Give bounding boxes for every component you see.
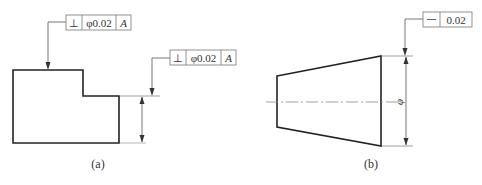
leader-line-top: [48, 22, 66, 66]
arrow-icon: [404, 57, 409, 65]
datum-label: A: [224, 52, 232, 64]
tolerance-value: φ0.02: [191, 52, 217, 64]
tapered-part-outline: [277, 56, 381, 146]
datum-label: A: [119, 17, 127, 29]
tolerance-frame: 0.02: [423, 12, 472, 27]
arrow-icon: [140, 97, 145, 105]
arrow-icon: [46, 62, 51, 70]
arrow-icon: [404, 138, 409, 146]
figure-a: ⊥ φ0.02 A ⊥ φ0.02 A (a): [13, 15, 236, 171]
arrow-icon: [140, 135, 145, 143]
caption-b: (b): [364, 157, 378, 171]
perpendicularity-icon: ⊥: [173, 52, 183, 64]
tolerance-diagram: ⊥ φ0.02 A ⊥ φ0.02 A (a): [0, 0, 482, 185]
tolerance-value: φ0.02: [86, 17, 112, 29]
caption-a: (a): [91, 157, 104, 171]
arrow-icon: [403, 48, 408, 56]
tolerance-frame-right: ⊥ φ0.02 A: [170, 50, 236, 65]
tolerance-value: 0.02: [446, 14, 465, 26]
arrow-icon: [150, 88, 155, 96]
perpendicularity-icon: ⊥: [69, 17, 79, 29]
leader-line: [405, 19, 423, 52]
leader-line-right: [152, 58, 170, 92]
stepped-block-outline: [13, 70, 119, 143]
diameter-symbol: φ: [393, 99, 405, 105]
figure-b: 0.02 φ (b): [266, 12, 472, 171]
tolerance-frame-top: ⊥ φ0.02 A: [66, 15, 131, 30]
